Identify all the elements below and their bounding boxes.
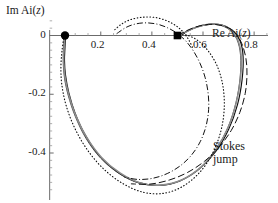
y-tick-label: -0.4 [16, 146, 46, 158]
start-dot [61, 31, 69, 39]
curve-dotted-loop [61, 35, 224, 194]
stokes-jump-annotation: Stokes jump [213, 140, 245, 165]
stokes-jump-line1: Stokes [213, 140, 245, 153]
y-axis-title: Im Ai(z) [6, 4, 45, 16]
x-tick-label: 0.6 [193, 39, 207, 51]
stokes-point-square [174, 32, 182, 40]
x-tick-label: 0.4 [142, 39, 156, 51]
y-tick-label: -0.2 [16, 87, 46, 99]
x-tick-label: 0.8 [244, 39, 258, 51]
y-tick-label: 0 [16, 29, 46, 41]
stokes-jump-line2: jump [213, 153, 245, 166]
x-tick-label: 0.2 [91, 39, 105, 51]
airy-stokes-phase-plot: Im Ai(z) Re Ai(z) Stokes jump 0.20.40.60… [0, 0, 278, 203]
